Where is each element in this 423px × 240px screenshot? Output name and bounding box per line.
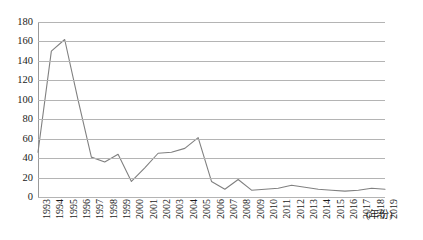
x-axis-tick-label: 2011 — [282, 199, 292, 219]
y-axis-tick-label: 140 — [17, 56, 33, 67]
y-axis-tick-label: 0 — [28, 192, 33, 203]
x-axis-tick-label: 2014 — [322, 199, 332, 219]
x-axis-tick-label: 2015 — [336, 199, 346, 219]
gridline — [38, 178, 385, 179]
gridline — [38, 158, 385, 159]
x-axis-tick-label: 1998 — [109, 199, 119, 219]
x-axis-tick-label: 1996 — [82, 199, 92, 219]
gridline — [38, 100, 385, 101]
y-axis-tick-label: 40 — [23, 153, 34, 164]
x-axis-tick-label: 2010 — [269, 199, 279, 219]
x-axis-tick-label: 2006 — [216, 199, 226, 219]
y-axis-tick-label: 80 — [23, 114, 34, 125]
y-axis-tick-label: 100 — [17, 95, 33, 106]
x-axis-tick-label: 2003 — [175, 199, 185, 219]
y-axis-tick-label: 160 — [17, 36, 33, 47]
y-axis-tick-label: 120 — [17, 75, 33, 86]
gridline — [38, 22, 385, 23]
x-axis-title: (年份) — [366, 210, 393, 220]
data-series-line — [38, 22, 385, 197]
x-axis-tick-labels: 1993199419951996199719981999200020012002… — [38, 199, 385, 240]
x-axis-tick-label: 1999 — [122, 199, 132, 219]
y-axis-tick-label: 60 — [23, 133, 34, 144]
gridline — [38, 41, 385, 42]
x-axis-tick-label: 2013 — [309, 199, 319, 219]
x-axis-tick-label: 2005 — [202, 199, 212, 219]
x-axis-tick-label: 2008 — [242, 199, 252, 219]
x-axis-tick-label: 2000 — [135, 199, 145, 219]
x-axis-tick-label: 1997 — [95, 199, 105, 219]
x-axis-tick-label: 1993 — [42, 199, 52, 219]
x-axis-tick-label: 2012 — [296, 199, 306, 219]
x-axis-tick-label: 2001 — [149, 199, 159, 219]
gridline — [38, 197, 385, 198]
x-axis-tick-label: 1995 — [69, 199, 79, 219]
x-axis-tick-label: 2004 — [189, 199, 199, 219]
gridline — [38, 61, 385, 62]
line-chart: 020406080100120140160180 199319941995199… — [0, 0, 423, 240]
y-axis-tick-label: 180 — [17, 17, 33, 28]
x-axis-tick-label: 1994 — [55, 199, 65, 219]
gridline — [38, 139, 385, 140]
gridline — [38, 80, 385, 81]
x-axis-tick-label: 2007 — [229, 199, 239, 219]
x-axis-tick-label: 2002 — [162, 199, 172, 219]
x-axis-tick-label: 2016 — [349, 199, 359, 219]
y-axis-tick-label: 20 — [23, 172, 34, 183]
gridline — [38, 119, 385, 120]
x-axis-tick-label: 2009 — [256, 199, 266, 219]
plot-area: 020406080100120140160180 — [38, 22, 385, 197]
